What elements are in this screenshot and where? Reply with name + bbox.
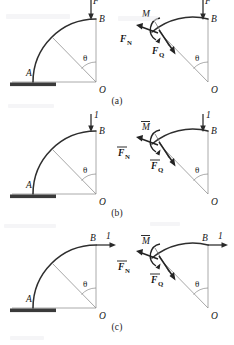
- figure-sheet: F B O A θ F: [0, 0, 234, 345]
- load-label-fbd-c: 1: [218, 231, 223, 241]
- beam-arc-fbd-a: [152, 17, 208, 32]
- load-label-c: 1: [106, 231, 111, 241]
- subfigure-caption-b: (b): [0, 208, 234, 218]
- point-label-b-b: B: [99, 126, 105, 136]
- shear-force-subscript-a: Q: [159, 51, 164, 58]
- shear-force-label-b: F: [150, 161, 158, 171]
- free-body-diagram-c: 1 M F N F Q: [112, 226, 229, 326]
- figure-row-b: 1 B O A θ 1: [0, 112, 234, 227]
- structural-diagram-b: 1 B O A θ: [0, 112, 117, 212]
- theta-label-b: θ: [83, 165, 87, 175]
- shear-force-subscript-b: Q: [158, 166, 163, 173]
- axial-force-label-group-a: F N: [119, 34, 132, 46]
- load-label-a: F: [92, 0, 99, 6]
- fixed-support-a: [10, 83, 56, 87]
- axial-force-subscript-c: N: [125, 267, 130, 274]
- point-label-o-b: O: [99, 197, 106, 207]
- point-label-b-fbd-c: B: [202, 233, 208, 243]
- axial-force-subscript-b: N: [125, 153, 130, 160]
- theta-label-fbd-c: θ: [195, 279, 199, 289]
- point-label-o-c: O: [99, 311, 106, 321]
- fixed-support-b: [10, 195, 56, 199]
- scan-artifact: [4, 224, 56, 228]
- point-label-o-fbd-a: O: [211, 85, 218, 95]
- moment-label-b: M: [141, 122, 151, 132]
- load-label-fbd-a: F: [204, 0, 211, 6]
- moment-arrowhead-a: [156, 38, 161, 44]
- free-body-diagram-b: 1 M F N: [112, 112, 229, 212]
- free-body-diagram-a: F M F N F Q: [112, 0, 229, 100]
- shear-force-label-group-b: F Q: [150, 160, 163, 173]
- figure-row-c: 1 B O A θ 1: [0, 226, 234, 341]
- point-label-b-fbd-b: B: [211, 126, 217, 136]
- load-label-b: 1: [94, 110, 99, 120]
- subfigure-caption-c: (c): [0, 322, 234, 332]
- fixed-support-c: [10, 309, 56, 313]
- load-arrowhead-fbd-c: [222, 242, 229, 248]
- theta-label-fbd-a: θ: [195, 53, 199, 63]
- moment-arrowhead-c: [156, 264, 161, 270]
- radius-line-c: [52, 263, 96, 308]
- radius-line-fbd-c: [164, 263, 208, 308]
- shear-force-label-c: F: [150, 275, 158, 285]
- scan-artifact: [10, 336, 44, 340]
- scan-artifact: [6, 14, 70, 19]
- axial-force-label-b: F: [117, 148, 125, 158]
- moment-arrowhead-b: [156, 150, 161, 156]
- point-label-a-c: A: [25, 294, 32, 304]
- radius-line-fbd-a: [164, 37, 208, 82]
- axial-force-arrowhead-c: [136, 249, 143, 256]
- axial-force-subscript-a: N: [127, 39, 132, 46]
- structural-diagram-c: 1 B O A θ: [0, 226, 117, 326]
- scan-artifact: [118, 16, 158, 21]
- point-label-b-a: B: [99, 14, 105, 24]
- shear-force-label-group-c: F Q: [150, 274, 163, 287]
- axial-force-arrowhead-b: [136, 135, 143, 142]
- radius-line-fbd-b: [164, 149, 208, 194]
- point-label-o-fbd-b: O: [211, 197, 218, 207]
- point-label-o-a: O: [99, 85, 106, 95]
- moment-label-c: M: [141, 236, 151, 246]
- moment-label-group-b: M: [141, 122, 151, 133]
- theta-label-c: θ: [83, 279, 87, 289]
- point-label-a-a: A: [25, 68, 32, 78]
- beam-arc-fbd-b: [152, 129, 208, 144]
- shear-force-label-group-a: F Q: [151, 46, 164, 58]
- axial-force-label-c: F: [117, 262, 125, 272]
- scan-artifact: [8, 104, 54, 108]
- shear-force-label-a: F: [151, 46, 159, 56]
- axial-force-label-a: F: [119, 34, 127, 44]
- theta-label-a: θ: [83, 53, 87, 63]
- load-label-fbd-b: 1: [206, 110, 211, 120]
- axial-force-arrowhead-a: [136, 23, 143, 30]
- theta-label-fbd-b: θ: [195, 165, 199, 175]
- point-label-b-c: B: [90, 233, 96, 243]
- scan-artifact: [150, 222, 180, 226]
- point-label-a-b: A: [25, 180, 32, 190]
- point-label-b-fbd-a: B: [211, 14, 217, 24]
- moment-label-group-c: M: [141, 236, 151, 247]
- radius-line-a: [52, 37, 96, 82]
- shear-force-subscript-c: Q: [158, 280, 163, 287]
- beam-arc-fbd-c: [152, 243, 208, 258]
- radius-line-b: [52, 149, 96, 194]
- axial-force-label-group-c: F N: [117, 261, 130, 274]
- point-label-o-fbd-c: O: [211, 311, 218, 321]
- axial-force-label-group-b: F N: [117, 147, 130, 160]
